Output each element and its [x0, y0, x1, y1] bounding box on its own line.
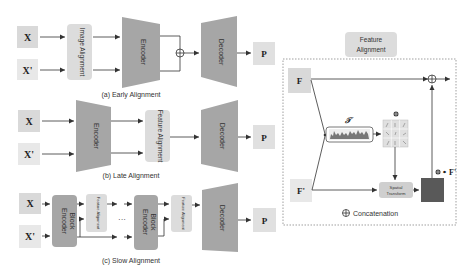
- arrow: [158, 219, 169, 236]
- warped-output-label: ∘ F': [442, 168, 456, 177]
- input-x-prime-label: X': [25, 231, 35, 242]
- phi-concat-icon: [394, 112, 399, 117]
- decoder-label: Decoder: [219, 205, 226, 232]
- output-p-label: P: [261, 49, 267, 59]
- panel-early-alignment: X X' Image Alignment Encoder Decoder P (…: [17, 16, 275, 99]
- input-x-label: X: [26, 198, 34, 209]
- feature-alignment-2-label: Feature Alignment: [181, 197, 186, 230]
- deformation-grid-icon: [383, 120, 408, 147]
- input-x-prime-label: X': [24, 149, 34, 160]
- output-p-label: P: [262, 216, 268, 226]
- feature-alignment-1-label: Feature Alignment: [96, 197, 101, 230]
- input-x-label: X: [24, 32, 32, 43]
- image-alignment-label: Image Alignment: [78, 28, 86, 77]
- panel-slow-alignment: X X' Encoder Block Feature Alignment ···…: [19, 183, 276, 265]
- transformer-feature-map-icon: [329, 129, 370, 140]
- input-f-label: F: [297, 76, 303, 86]
- feature-alignment-title-line1: Feature: [360, 36, 383, 43]
- ellipsis: ···: [118, 215, 126, 224]
- feature-alignment-title-line2: Alignment: [357, 46, 386, 54]
- warped-feature-block: [421, 178, 444, 202]
- concatenation-icon: [176, 49, 184, 57]
- input-x-label: X: [25, 116, 33, 127]
- decoder-label: Decoder: [218, 39, 225, 66]
- concatenation-icon: [428, 75, 436, 83]
- concatenation-legend-label: Concatenation: [353, 210, 398, 217]
- arrow: [77, 219, 84, 237]
- spatial-transform-line2: Transform: [387, 191, 406, 196]
- alignment-diagram: X X' Image Alignment Encoder Decoder P (…: [0, 0, 474, 271]
- connector-line: [312, 136, 325, 190]
- spatial-transform-line1: Spatial: [390, 185, 403, 190]
- output-p-label: P: [261, 133, 267, 143]
- phi-concat-icon: [436, 170, 441, 175]
- decoder-label: Decoder: [219, 123, 226, 150]
- panel-late-alignment: X X' Encoder Feature Alignment Decoder P…: [18, 100, 275, 180]
- connector-line: [311, 80, 325, 134]
- caption-early: (a) Early Alignment: [101, 91, 160, 99]
- input-x-prime-label: X': [23, 65, 33, 76]
- encoder-block-1-line1: Encoder: [61, 208, 68, 235]
- encoder-label: Encoder: [140, 39, 147, 66]
- concatenation-legend-icon: [343, 210, 350, 217]
- encoder-block-2-line1: Encoder: [142, 209, 149, 236]
- feature-alignment-label: Feature Alignment: [156, 110, 164, 163]
- input-f-prime-label: F': [297, 186, 305, 196]
- encoder-block-1-line2: Block: [69, 212, 76, 230]
- connector-line: [160, 36, 180, 49]
- transformer-label: 𝒯: [344, 116, 354, 125]
- feature-alignment-detail: Feature Alignment F F' 𝒯: [283, 32, 456, 225]
- caption-slow: (c) Slow Alignment: [102, 257, 160, 265]
- caption-late: (b) Late Alignment: [103, 172, 160, 180]
- encoder-block-2-line2: Block: [150, 213, 157, 231]
- connector-line: [160, 57, 180, 71]
- encoder-label: Encoder: [93, 123, 100, 150]
